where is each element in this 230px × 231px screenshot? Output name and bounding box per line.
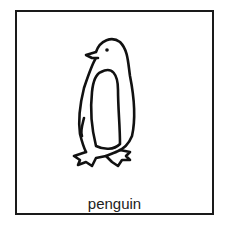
symbol-card: penguin xyxy=(15,10,214,215)
eye-icon xyxy=(105,48,109,52)
symbol-label: penguin xyxy=(17,195,212,212)
